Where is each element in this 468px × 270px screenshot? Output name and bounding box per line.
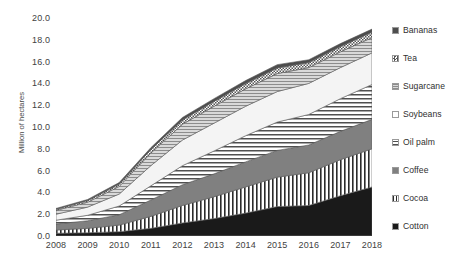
x-tick-label: 2017	[330, 240, 350, 250]
x-tick-label: 2012	[172, 240, 192, 250]
legend-label: Soybeans	[403, 109, 442, 119]
x-tick-label: 2010	[109, 240, 129, 250]
legend-item-tea[interactable]: Tea	[392, 53, 417, 63]
y-tick-label: 8.0	[37, 144, 50, 154]
legend-item-coffee[interactable]: Coffee	[392, 165, 428, 175]
legend-item-bananas[interactable]: Bananas	[392, 25, 437, 35]
x-tick-label: 2011	[141, 240, 161, 250]
x-tick-label: 2016	[299, 240, 319, 250]
legend-swatch-icon	[392, 55, 399, 62]
x-tick-label: 2009	[77, 240, 97, 250]
plot-area	[56, 18, 372, 236]
stacked-area-svg	[56, 18, 372, 236]
chart-legend: BananasTeaSugarcaneSoybeansOil palmCoffe…	[392, 16, 468, 240]
legend-label: Cocoa	[403, 193, 428, 203]
legend-label: Oil palm	[403, 137, 435, 147]
y-tick-label: 10.0	[32, 122, 50, 132]
legend-label: Bananas	[403, 25, 437, 35]
x-tick-label: 2014	[235, 240, 255, 250]
legend-swatch-icon	[392, 167, 399, 174]
y-axis-tick-labels: 0.02.04.06.08.010.012.014.016.018.020.0	[18, 14, 50, 236]
legend-swatch-icon	[392, 27, 399, 34]
y-tick-label: 14.0	[32, 78, 50, 88]
legend-item-oil-palm[interactable]: Oil palm	[392, 137, 435, 147]
x-tick-label: 2013	[204, 240, 224, 250]
legend-swatch-icon	[392, 139, 399, 146]
legend-item-cotton[interactable]: Cotton	[392, 221, 429, 231]
legend-label: Cotton	[403, 221, 429, 231]
legend-item-soybeans[interactable]: Soybeans	[392, 109, 442, 119]
x-axis-tick-labels: 2008200920102011201220132014201520162017…	[56, 240, 372, 256]
legend-swatch-icon	[392, 83, 399, 90]
legend-swatch-icon	[392, 195, 399, 202]
legend-label: Coffee	[403, 165, 428, 175]
legend-label: Tea	[403, 53, 417, 63]
y-tick-label: 6.0	[37, 166, 50, 176]
x-tick-label: 2018	[362, 240, 382, 250]
y-tick-label: 18.0	[32, 35, 50, 45]
y-tick-label: 16.0	[32, 57, 50, 67]
x-tick-label: 2015	[267, 240, 287, 250]
legend-swatch-icon	[392, 223, 399, 230]
chart-figure: Million of hectares 0.02.04.06.08.010.01…	[0, 0, 468, 270]
y-tick-label: 4.0	[37, 187, 50, 197]
legend-label: Sugarcane	[403, 81, 445, 91]
legend-item-sugarcane[interactable]: Sugarcane	[392, 81, 445, 91]
legend-item-cocoa[interactable]: Cocoa	[392, 193, 428, 203]
legend-swatch-icon	[392, 111, 399, 118]
x-tick-label: 2008	[46, 240, 66, 250]
y-tick-label: 12.0	[32, 100, 50, 110]
y-tick-label: 20.0	[32, 13, 50, 23]
y-tick-label: 2.0	[37, 209, 50, 219]
